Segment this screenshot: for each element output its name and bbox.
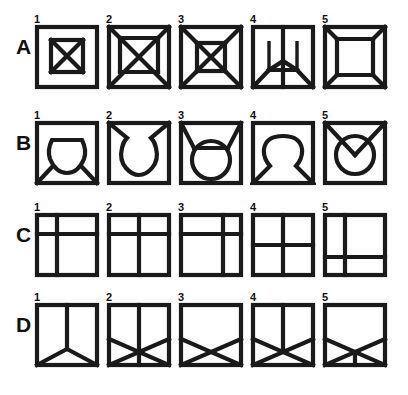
figure-square-divided-right-vertical-high-horizontal [178, 212, 244, 278]
figure-square-with-vertical-split-and-lower-y-struts [250, 24, 316, 90]
cell-number-d5: 5 [322, 292, 328, 302]
figure-square-with-inverted-y [34, 302, 100, 368]
cell-number-b4: 4 [250, 110, 256, 120]
cell-number-c1: 1 [34, 202, 40, 212]
figure-cell-a1[interactable]: 1 [32, 14, 102, 92]
figure-row-b: B 1 2 3 [0, 110, 408, 200]
figure-square-with-upper-vertical-and-lower-x [250, 302, 316, 368]
figure-cell-a3[interactable]: 3 [176, 14, 246, 92]
cell-number-d3: 3 [178, 292, 184, 302]
figure-cell-c3[interactable]: 3 [176, 202, 246, 280]
figure-cell-b5[interactable]: 5 [320, 110, 390, 188]
figure-square-with-flat-top-circle-and-bottom-diagonals [34, 120, 100, 186]
figure-square-with-circle-and-v-chevron [322, 120, 388, 186]
figure-cell-d5[interactable]: 5 [320, 292, 390, 370]
figure-cell-b1[interactable]: 1 [32, 110, 102, 188]
figure-cell-c2[interactable]: 2 [104, 202, 174, 280]
cell-number-d2: 2 [106, 292, 112, 302]
cell-number-c2: 2 [106, 202, 112, 212]
figure-cell-a2[interactable]: 2 [104, 14, 174, 92]
figure-square-with-notched-circle-and-top-diagonals [106, 120, 172, 186]
cell-number-b5: 5 [322, 110, 328, 120]
cell-number-d1: 1 [34, 292, 40, 302]
cell-number-a3: 3 [178, 14, 184, 24]
cell-number-a4: 4 [250, 14, 256, 24]
figure-cell-c5[interactable]: 5 [320, 202, 390, 280]
cell-number-c3: 3 [178, 202, 184, 212]
figure-square-with-lower-x-and-short-vertical [322, 302, 388, 368]
figure-cell-b3[interactable]: 3 [176, 110, 246, 188]
figure-cell-c4[interactable]: 4 [248, 202, 318, 280]
cell-number-b1: 1 [34, 110, 40, 120]
cell-number-a1: 1 [34, 14, 40, 24]
figure-cell-d2[interactable]: 2 [104, 292, 174, 370]
cell-number-a5: 5 [322, 14, 328, 24]
figure-square-with-circle-and-bottom-corner-diagonals [250, 120, 316, 186]
figure-square-with-inner-square-corner-diagonals-and-x [178, 24, 244, 90]
cell-number-d4: 4 [250, 292, 256, 302]
cell-number-a2: 2 [106, 14, 112, 24]
figure-row-d: D 1 2 [0, 292, 408, 382]
figure-cell-b4[interactable]: 4 [248, 110, 318, 188]
figure-cell-d1[interactable]: 1 [32, 292, 102, 370]
figure-row-c: C 1 2 3 [0, 202, 408, 292]
figure-cell-b2[interactable]: 2 [104, 110, 174, 188]
figure-square-divided-left-vertical-low-horizontal [322, 212, 388, 278]
figure-square-with-circle-and-top-corner-diagonals [178, 120, 244, 186]
figure-square-divided-center-vertical-center-horizontal [250, 212, 316, 278]
figure-square-with-vertical-and-lower-x [106, 302, 172, 368]
figure-cell-d3[interactable]: 3 [176, 292, 246, 370]
cell-number-b3: 3 [178, 110, 184, 120]
cell-number-b2: 2 [106, 110, 112, 120]
figure-square-with-inner-bevelled-square [322, 24, 388, 90]
worksheet-sheet: A 1 2 [0, 0, 408, 395]
figure-square-divided-center-vertical-high-horizontal [106, 212, 172, 278]
cell-number-c4: 4 [250, 202, 256, 212]
figure-square-with-inner-square-and-full-diagonals [106, 24, 172, 90]
figure-square-with-inner-square-and-x [34, 24, 100, 90]
figure-cell-a4[interactable]: 4 [248, 14, 318, 92]
cell-number-c5: 5 [322, 202, 328, 212]
figure-square-divided-left-vertical-high-horizontal [34, 212, 100, 278]
figure-cell-c1[interactable]: 1 [32, 202, 102, 280]
figure-row-a: A 1 2 [0, 14, 408, 104]
figure-cell-d4[interactable]: 4 [248, 292, 318, 370]
figure-square-with-lower-x [178, 302, 244, 368]
figure-cell-a5[interactable]: 5 [320, 14, 390, 92]
